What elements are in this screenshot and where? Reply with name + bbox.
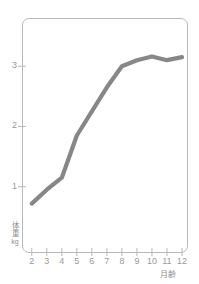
x-axis-tick-label: 10 [144, 256, 160, 266]
x-axis-tick-label: 5 [69, 256, 85, 266]
y-axis-unit-text: kg [9, 238, 21, 246]
weight-growth-line [32, 57, 182, 204]
y-axis-tick-label: 2 [3, 120, 17, 130]
x-axis-tick-label: 4 [54, 256, 70, 266]
y-axis-tick-label: 1 [3, 181, 17, 191]
x-axis-title: 月齢 [160, 268, 176, 279]
x-axis-tick-label: 12 [174, 256, 190, 266]
y-axis-tick-label: 3 [3, 60, 17, 70]
x-axis-tick-label: 3 [39, 256, 55, 266]
y-axis-title-text: 体重 [9, 222, 21, 238]
y-axis-title: 体重 kg [9, 222, 21, 246]
x-axis-tick-label: 7 [99, 256, 115, 266]
chart-canvas [0, 0, 199, 284]
chart-root: 123 23456789101112 体重 kg 月齢 [0, 0, 199, 284]
x-axis-tick-label: 2 [24, 256, 40, 266]
x-axis-tick-label: 11 [159, 256, 175, 266]
x-axis-tick-label: 8 [114, 256, 130, 266]
x-axis-tick-label: 9 [129, 256, 145, 266]
x-axis-tick-label: 6 [84, 256, 100, 266]
